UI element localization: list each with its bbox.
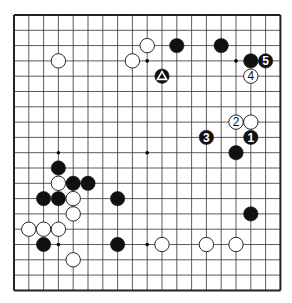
- star-point: [234, 59, 238, 63]
- star-point: [145, 243, 149, 247]
- star-point: [145, 151, 149, 155]
- black-stone: [36, 191, 50, 205]
- black-stone: [110, 191, 124, 205]
- star-point: [57, 243, 61, 247]
- black-stone: [229, 146, 243, 160]
- black-stone: [36, 237, 50, 251]
- black-stone: [244, 54, 258, 68]
- white-stone: [244, 115, 258, 129]
- move-number-label: 4: [247, 69, 254, 83]
- white-stone: [51, 176, 65, 190]
- white-stone: [66, 253, 80, 267]
- black-stone: [66, 176, 80, 190]
- white-stone: [51, 54, 65, 68]
- star-point: [57, 151, 61, 155]
- move-number-label: 2: [233, 115, 240, 129]
- black-stone: [170, 38, 184, 52]
- star-point: [145, 59, 149, 63]
- white-stone: [229, 237, 243, 251]
- go-board: 54231: [0, 0, 292, 303]
- white-stone: [125, 54, 139, 68]
- white-stone: 4: [244, 69, 258, 83]
- black-stone: [51, 161, 65, 175]
- white-stone: 2: [229, 115, 243, 129]
- black-stone: [51, 191, 65, 205]
- white-stone: [140, 38, 154, 52]
- black-stone: 3: [199, 130, 213, 144]
- black-stone: [155, 69, 169, 83]
- black-stone: [81, 176, 95, 190]
- black-stone: [214, 38, 228, 52]
- white-stone: [22, 222, 36, 236]
- move-number-label: 1: [247, 131, 254, 145]
- white-stone: [36, 222, 50, 236]
- white-stone: [199, 237, 213, 251]
- black-stone: 1: [244, 130, 258, 144]
- black-stone: 5: [258, 54, 272, 68]
- move-number-label: 3: [203, 131, 210, 145]
- move-number-label: 5: [262, 54, 269, 68]
- white-stone: [66, 191, 80, 205]
- white-stone: [66, 207, 80, 221]
- black-stone: [110, 237, 124, 251]
- black-stone: [244, 207, 258, 221]
- white-stone: [155, 237, 169, 251]
- white-stone: [51, 222, 65, 236]
